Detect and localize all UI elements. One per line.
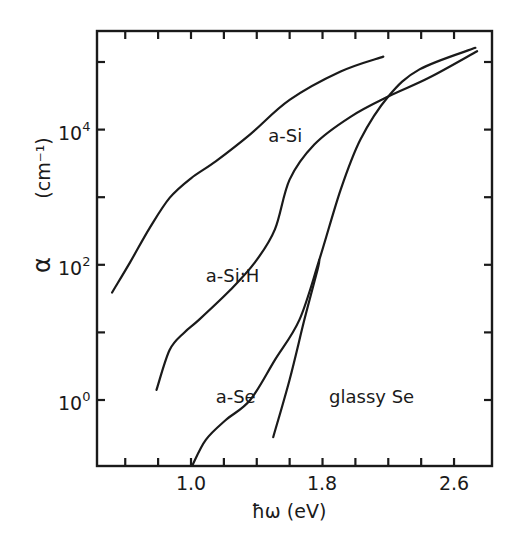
y-axis-unit: (cm⁻¹) bbox=[32, 137, 54, 198]
absorption-chart: a-Sia-Si:Ha-Seglassy Se 1.0 1.8 2.6 100 … bbox=[0, 0, 515, 550]
curve-glassy-se bbox=[273, 260, 319, 437]
curve-labels: a-Sia-Si:Ha-Seglassy Se bbox=[206, 125, 414, 408]
y-tick-label: 104 bbox=[58, 119, 90, 144]
y-tick-label: 102 bbox=[58, 254, 90, 279]
x-tick-label: 2.6 bbox=[439, 472, 469, 494]
y-tick-label: 100 bbox=[58, 389, 90, 414]
curve-label: a-Se bbox=[216, 386, 256, 407]
curves bbox=[112, 48, 477, 465]
x-axis-title: ħω (eV) bbox=[252, 500, 327, 522]
curve-label: a-Si bbox=[268, 125, 302, 146]
x-tick-label: 1.8 bbox=[307, 472, 337, 494]
curve-label: glassy Se bbox=[329, 386, 414, 407]
curve-label: a-Si:H bbox=[206, 265, 260, 286]
curve-a-si bbox=[112, 57, 383, 293]
y-axis-symbol: α bbox=[28, 257, 56, 273]
x-tick-label: 1.0 bbox=[176, 472, 206, 494]
curve-a-si-h bbox=[157, 51, 478, 390]
